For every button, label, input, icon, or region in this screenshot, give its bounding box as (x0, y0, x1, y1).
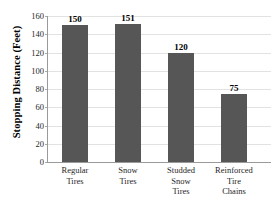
y-tick-label: 120 (22, 48, 44, 57)
x-tick-label-line: Tires (100, 176, 156, 187)
y-tick-label: 60 (22, 103, 44, 112)
bar-reinforced-tire-chains[interactable] (221, 94, 247, 162)
x-tick-label-studded-snow-tires: StuddedSnowTires (153, 165, 209, 197)
x-tick-label-reinforced-tire-chains: ReinforcedTireChains (206, 165, 262, 197)
x-axis-tick-labels: RegularTires SnowTires StuddedSnowTires … (48, 165, 271, 209)
x-axis-line (47, 162, 271, 163)
bar-snow-tires[interactable] (115, 24, 141, 162)
x-tick-label-snow-tires: SnowTires (100, 165, 156, 186)
bar-studded-snow-tires[interactable] (168, 53, 194, 163)
bar-value-label: 120 (158, 42, 204, 52)
x-tick-label-line: Chains (206, 186, 262, 197)
bar-chart: Stopping Distance (Feet) 160 140 120 100… (0, 0, 275, 211)
y-axis-tick-labels: 160 140 120 100 80 60 40 20 0 (22, 16, 44, 162)
plot-area: 150 151 120 75 (48, 16, 271, 162)
x-tick-label-line: Regular (47, 165, 103, 176)
y-tick-label: 80 (22, 85, 44, 94)
bar-value-label: 75 (211, 83, 257, 93)
x-tick-label-regular-tires: RegularTires (47, 165, 103, 186)
x-tick-label-line: Studded (153, 165, 209, 176)
y-tick-label: 100 (22, 66, 44, 75)
x-tick-label-line: Tire (206, 176, 262, 187)
x-tick-label-line: Snow (153, 176, 209, 187)
y-tick-label: 0 (22, 158, 44, 167)
y-tick-label: 40 (22, 121, 44, 130)
y-tick-label: 160 (22, 12, 44, 21)
y-tick-label: 20 (22, 139, 44, 148)
x-tick-label-line: Reinforced (206, 165, 262, 176)
bar-regular-tires[interactable] (62, 25, 88, 162)
x-tick-label-line: Tires (153, 186, 209, 197)
x-tick-label-line: Snow (100, 165, 156, 176)
bar-value-label: 150 (52, 14, 98, 24)
bar-value-label: 151 (105, 13, 151, 23)
y-tick-label: 140 (22, 30, 44, 39)
x-tick-label-line: Tires (47, 176, 103, 187)
